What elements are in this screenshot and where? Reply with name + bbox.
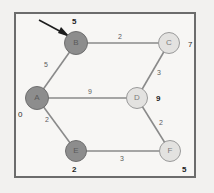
distance-label-a: 0 <box>18 111 22 119</box>
edge-weight-a-e: 2 <box>45 116 49 123</box>
distance-label-d: 9 <box>156 95 160 103</box>
graph-node-e[interactable]: E <box>65 140 87 162</box>
edge-weight-a-d: 9 <box>88 88 92 95</box>
edge-weight-d-f: 2 <box>159 119 163 126</box>
edge-weight-b-c: 2 <box>118 33 122 40</box>
node-label-d: D <box>134 94 140 102</box>
distance-label-f: 5 <box>182 166 186 174</box>
graph-node-b[interactable]: B <box>64 31 88 55</box>
graph-node-a[interactable]: A <box>25 86 49 110</box>
node-label-e: E <box>73 147 78 155</box>
node-label-c: C <box>166 39 172 47</box>
graph-node-d[interactable]: D <box>126 87 148 109</box>
edge-lines <box>37 43 170 151</box>
graph-node-c[interactable]: C <box>158 32 180 54</box>
node-label-a: A <box>34 94 39 102</box>
distance-label-c: 7 <box>188 41 192 49</box>
distance-label-b: 5 <box>72 18 76 26</box>
edge-weight-c-d: 3 <box>157 69 161 76</box>
graph-node-f[interactable]: F <box>159 140 181 162</box>
edge-weight-e-f: 3 <box>120 155 124 162</box>
edge-weight-a-b: 5 <box>44 61 48 68</box>
distance-label-e: 2 <box>72 166 76 174</box>
diagram-page: A B C D E F 0 5 7 9 2 5 5 2 9 3 2 2 3 <box>0 0 214 193</box>
node-label-b: B <box>73 39 78 47</box>
node-label-f: F <box>168 147 173 155</box>
arrow-pointer <box>39 20 70 37</box>
